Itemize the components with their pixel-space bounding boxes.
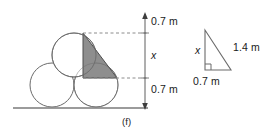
right-angle-marker-icon — [205, 64, 211, 70]
geometry-figure: 0.7 m x 0.7 m x 1.4 m 0.7 m (f) — [0, 0, 262, 137]
label-top-segment: 0.7 m — [151, 16, 178, 27]
measurement-axis — [141, 12, 149, 110]
label-right-triangle-vertical-leg: x — [195, 45, 200, 56]
axis-arrow-bottom-icon — [142, 103, 148, 110]
axis-arrow-top-icon — [142, 12, 148, 19]
figure-caption: (f) — [122, 117, 131, 127]
label-right-triangle-base: 0.7 m — [193, 76, 220, 87]
label-right-triangle-hypotenuse: 1.4 m — [233, 42, 260, 53]
right-triangle-detail — [205, 30, 231, 70]
label-middle-segment-x: x — [151, 50, 156, 61]
label-bottom-segment: 0.7 m — [151, 84, 178, 95]
